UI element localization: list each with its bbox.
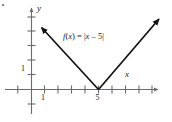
formula-minus-sign: – <box>89 31 98 41</box>
y-tick-label-1: 1 <box>21 65 25 73</box>
y-axis-label: y <box>37 4 41 13</box>
x-axis-label: x <box>125 70 129 79</box>
x-tick-label-1: 1 <box>41 94 45 102</box>
x-tick-label-5: 5 <box>96 94 100 102</box>
formula-equals: = <box>75 31 84 41</box>
function-formula-annotation: f(x) = |x – 5| <box>63 32 104 41</box>
formula-abs-bar-right: | <box>102 31 104 41</box>
plot-canvas <box>0 0 172 122</box>
absolute-value-function-graph: x y 1 5 1 f(x) = |x – 5| <box>0 0 172 122</box>
